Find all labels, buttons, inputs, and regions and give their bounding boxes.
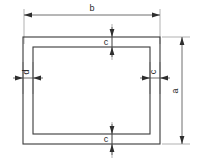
arrowhead-b-left: [24, 13, 32, 18]
part-outline: [23, 37, 160, 144]
arrowhead-c-top-lower: [110, 47, 115, 55]
dimension-label-a: a: [170, 88, 180, 93]
dimension-label-b: b: [89, 3, 94, 13]
arrowhead-a-bottom: [180, 136, 185, 144]
dimension-label-c-right: c: [148, 69, 158, 74]
dimension-a: a: [170, 37, 184, 144]
inner-rectangle: [33, 47, 150, 134]
arrowhead-c-bottom-lower: [110, 144, 115, 152]
arrowhead-c-bottom-upper: [110, 126, 115, 134]
dimension-label-c-top: c: [104, 37, 109, 47]
dimension-c-bottom: c: [104, 124, 115, 155]
arrowhead-d-left: [15, 76, 23, 81]
dimension-c-top: c: [104, 27, 115, 57]
arrowhead-d-right: [33, 76, 41, 81]
dimension-label-c-bottom: c: [104, 134, 109, 144]
arrowhead-c-top-upper: [110, 29, 115, 37]
arrowhead-a-top: [180, 37, 185, 45]
dimension-drawing-svg: b a d c c: [0, 0, 198, 163]
arrowhead-c-right-outer: [160, 76, 168, 81]
dimension-d: d: [13, 69, 43, 80]
outer-rectangle: [23, 37, 160, 144]
dimension-label-d: d: [21, 69, 31, 74]
arrowhead-b-right: [152, 13, 160, 18]
dimension-b: b: [24, 3, 160, 17]
dimension-c-right: c: [140, 69, 170, 80]
technical-drawing-canvas: b a d c c: [0, 0, 198, 163]
arrowhead-c-right-inner: [142, 76, 150, 81]
